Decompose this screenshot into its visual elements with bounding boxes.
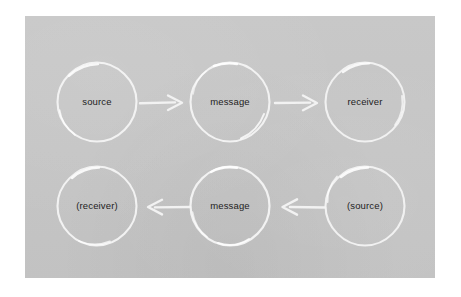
arrow-message-to-receiver-feedback-icon [138,194,192,220]
node-source-parenthetical[interactable]: (source) [323,164,407,248]
node-label: (source) [347,201,383,211]
node-label: receiver [348,97,383,107]
node-label: message [210,97,250,107]
node-label: (receiver) [76,201,118,211]
node-message-top[interactable]: message [188,60,272,144]
arrow-source-to-message-feedback-icon [273,194,327,220]
node-receiver-parenthetical[interactable]: (receiver) [55,164,139,248]
node-label: source [82,97,111,107]
arrow-source-to-message-icon [138,90,192,116]
node-source[interactable]: source [55,60,139,144]
node-label: message [210,201,250,211]
node-receiver[interactable]: receiver [323,60,407,144]
diagram-panel: source message [25,16,435,278]
arrow-message-to-receiver-icon [273,90,327,116]
node-message-bottom[interactable]: message [188,164,272,248]
